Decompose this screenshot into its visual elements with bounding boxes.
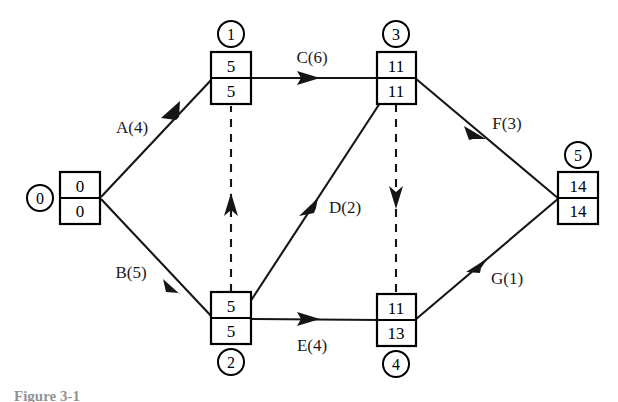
node-2-earliest-time: 5 [227,297,236,316]
node-3-latest-time: 11 [388,82,404,101]
edge-label-D: D(2) [329,198,361,217]
node-2-latest-time: 5 [227,322,236,341]
edge-label-E: E(4) [297,336,327,355]
node-3-id-label: 3 [392,26,400,43]
node-0-earliest-time: 0 [76,177,85,196]
node-3[interactable]: 3 11 11 [377,21,416,104]
edge-G: G(1) [415,198,559,320]
node-5-latest-time: 14 [570,202,588,221]
network-diagram-canvas: A(4) B(5) C(6) D(2) E(4) [0,0,618,402]
edge-label-F: F(3) [492,114,521,133]
edge-A-arrowhead [161,101,180,120]
node-1-id-label: 1 [227,26,235,43]
node-4-latest-time: 13 [388,324,405,343]
edge-G-arrowhead [466,258,488,273]
edge-B-line [101,199,213,318]
edge-B: B(5) [101,199,213,318]
edge-label-A: A(4) [116,118,148,137]
node-3-earliest-time: 11 [388,57,404,76]
edge-label-G: G(1) [491,269,523,288]
node-1-latest-time: 5 [227,82,236,101]
edge-C: C(6) [251,48,379,86]
edge-A: A(4) [101,78,213,197]
edge-A-line [101,78,213,197]
node-0-latest-time: 0 [76,202,85,221]
dummy-edge-3-to-4 [389,104,403,294]
node-4-id-label: 4 [392,356,400,373]
node-5-id-label: 5 [574,147,582,164]
edge-label-B: B(5) [115,263,146,282]
node-0[interactable]: 0 0 0 [27,172,100,224]
edge-label-C: C(6) [296,48,327,67]
node-2[interactable]: 5 5 2 [211,292,251,375]
node-1-earliest-time: 5 [227,57,236,76]
node-4[interactable]: 11 13 4 [377,294,416,377]
node-5-earliest-time: 14 [570,177,588,196]
edge-F: F(3) [415,78,559,199]
figure-caption: Figure 3-1 [14,388,80,402]
edge-F-line [415,78,559,199]
node-1[interactable]: 1 5 5 [211,21,251,104]
dummy-edge-3-to-4-arrowhead [389,186,403,209]
edge-E: E(4) [249,312,379,355]
node-0-id-label: 0 [36,190,44,207]
node-5[interactable]: 5 14 14 [558,142,598,224]
dummy-edge-2-to-1 [224,106,238,292]
network-diagram: A(4) B(5) C(6) D(2) E(4) [0,0,618,402]
edge-D: D(2) [250,103,380,302]
node-4-earliest-time: 11 [388,299,404,318]
node-2-id-label: 2 [227,354,235,371]
